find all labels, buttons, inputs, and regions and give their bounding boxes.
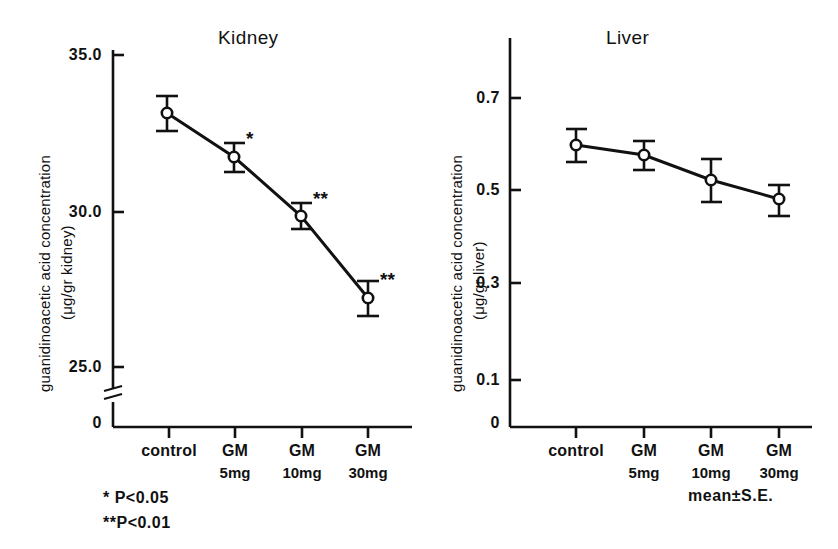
two-panel-line-chart-figure: Kidney guanidinoacetic acid concentratio… bbox=[0, 0, 838, 549]
footnote-p-005: * P<0.05 bbox=[103, 489, 169, 507]
data-point-liver-3 bbox=[774, 194, 784, 204]
significance-mark-kidney-2: ** bbox=[313, 188, 328, 210]
series-line-liver bbox=[576, 145, 779, 199]
data-point-kidney-3 bbox=[363, 293, 373, 303]
panel-kidney: Kidney guanidinoacetic acid concentratio… bbox=[0, 0, 440, 549]
data-point-kidney-2 bbox=[296, 211, 306, 221]
significance-mark-kidney-3: ** bbox=[380, 269, 395, 291]
x-category-label-kidney-3: GM bbox=[328, 442, 408, 460]
significance-mark-kidney-1: * bbox=[246, 128, 253, 150]
panel-liver: Liver guanidinoacetic acid concentration… bbox=[440, 0, 838, 549]
data-point-kidney-1 bbox=[229, 152, 239, 162]
footnote-p-001: **P<0.01 bbox=[103, 514, 171, 532]
x-category-label-liver-3: GM bbox=[739, 442, 819, 460]
series-line-kidney bbox=[167, 113, 368, 298]
data-point-liver-0 bbox=[571, 140, 581, 150]
x-category-sub-liver-3: 30mg bbox=[739, 464, 819, 481]
data-point-liver-2 bbox=[706, 175, 716, 185]
x-category-sub-kidney-3: 30mg bbox=[328, 464, 408, 481]
caption-mean-se: mean±S.E. bbox=[688, 487, 773, 505]
data-point-kidney-0 bbox=[162, 108, 172, 118]
axis-break-icon bbox=[104, 386, 122, 399]
data-point-liver-1 bbox=[639, 150, 649, 160]
